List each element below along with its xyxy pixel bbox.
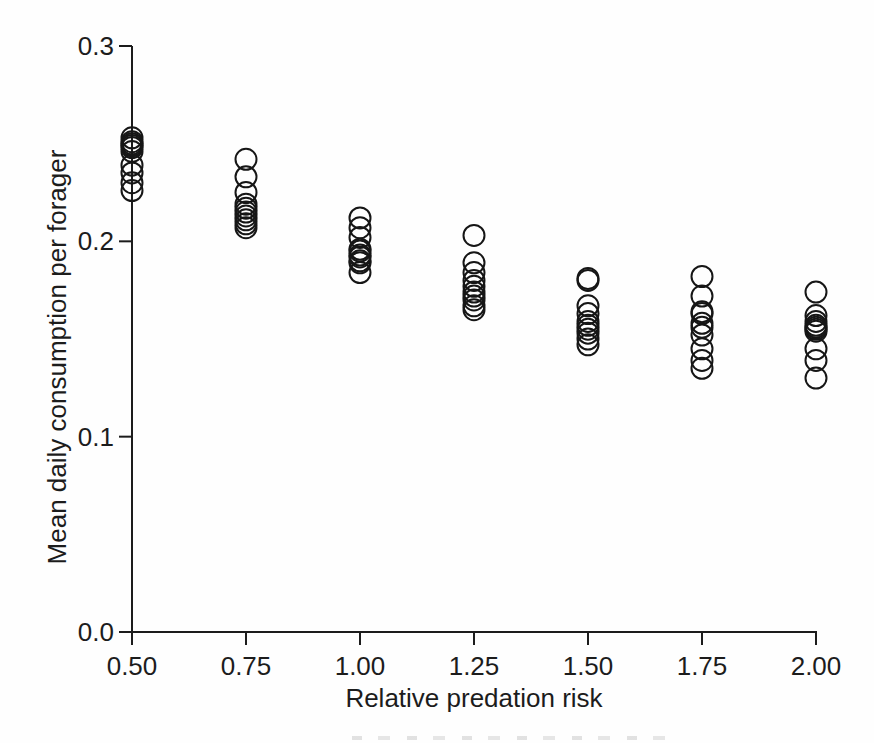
data-point: [578, 334, 599, 355]
x-axis-title: Relative predation risk: [345, 683, 603, 713]
data-point: [806, 282, 827, 303]
cropped-caption-fragment: [352, 736, 682, 740]
data-point: [692, 338, 713, 359]
scatter-plot: 0.30.20.10.00.500.751.001.251.501.752.00…: [0, 0, 874, 743]
x-tick-label: 1.75: [677, 651, 728, 681]
x-tick-label: 1.00: [335, 651, 386, 681]
data-point: [692, 266, 713, 287]
x-tick-label: 2.00: [791, 651, 842, 681]
data-point: [578, 270, 599, 291]
y-tick-label: 0.0: [78, 617, 114, 647]
y-tick-label: 0.2: [78, 226, 114, 256]
y-axis-title: Mean daily consumption per forager: [42, 149, 72, 564]
data-point: [464, 225, 485, 246]
x-tick-label: 1.25: [449, 651, 500, 681]
x-tick-label: 1.50: [563, 651, 614, 681]
x-tick-label: 0.75: [221, 651, 272, 681]
data-point: [578, 268, 599, 289]
scatter-figure: 0.30.20.10.00.500.751.001.251.501.752.00…: [0, 0, 874, 743]
y-tick-label: 0.3: [78, 31, 114, 61]
x-tick-label: 0.50: [107, 651, 158, 681]
tick-labels-layer: 0.30.20.10.00.500.751.001.251.501.752.00: [78, 31, 841, 681]
y-tick-label: 0.1: [78, 422, 114, 452]
data-points-layer: [122, 127, 827, 388]
axes-layer: [131, 46, 817, 632]
